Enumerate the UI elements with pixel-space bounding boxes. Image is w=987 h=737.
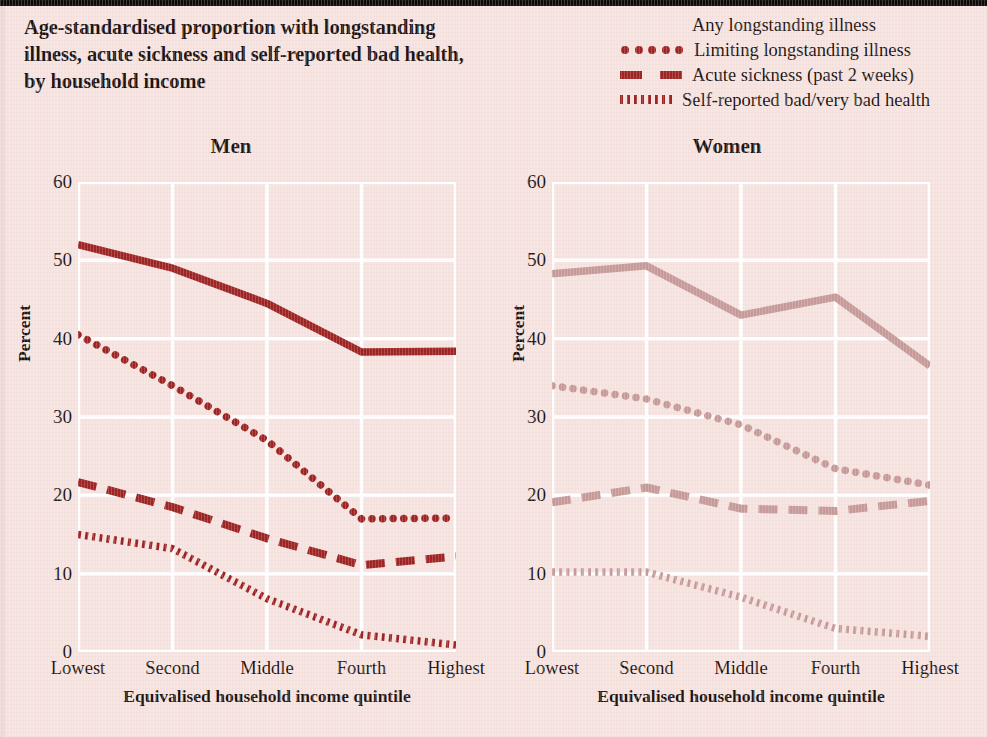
x-tick-label: Highest [901, 658, 959, 679]
y-tick-label: 60 [510, 171, 546, 193]
plot-area-men: 0102030405060 LowestSecondMiddleFourthHi… [78, 182, 456, 652]
y-axis-ticks-women: 0102030405060 [506, 182, 546, 652]
dashed-line-key-icon [620, 69, 682, 81]
y-tick-label: 30 [510, 406, 546, 428]
chart-svg-women [552, 182, 930, 652]
x-axis-ticks-women: LowestSecondMiddleFourthHighest [552, 652, 930, 686]
chart-panel-women: Women Percent 0102030405060 LowestSecond… [500, 130, 970, 730]
y-axis-ticks-men: 0102030405060 [32, 182, 72, 652]
figure-title-line-2: illness, acute sickness and self-reporte… [24, 41, 584, 68]
legend: Any longstanding illness Limiting longst… [620, 12, 980, 112]
legend-label: Any longstanding illness [692, 15, 876, 35]
plot-area-women: 0102030405060 LowestSecondMiddleFourthHi… [552, 182, 930, 652]
x-tick-label: Fourth [811, 658, 860, 679]
y-tick-label: 20 [510, 484, 546, 506]
x-tick-label: Middle [714, 658, 767, 679]
legend-label: Self-reported bad/very bad health [682, 90, 930, 110]
x-axis-label-women: Equivalised household income quintile [552, 686, 930, 707]
x-tick-label: Highest [427, 658, 485, 679]
chart-svg-men [78, 182, 456, 652]
x-tick-label: Middle [240, 658, 293, 679]
panel-title-women: Women [492, 134, 962, 159]
legend-item-any-longstanding-illness: Any longstanding illness [620, 12, 980, 37]
panel-title-men: Men [0, 134, 466, 159]
legend-item-acute-sickness: Acute sickness (past 2 weeks) [620, 62, 980, 87]
legend-item-limiting-longstanding-illness: Limiting longstanding illness [620, 37, 980, 62]
x-tick-label: Lowest [525, 658, 579, 679]
left-page-edge [0, 6, 5, 737]
y-tick-label: 30 [36, 406, 72, 428]
x-axis-ticks-men: LowestSecondMiddleFourthHighest [78, 652, 456, 686]
y-tick-label: 50 [36, 249, 72, 271]
figure-title-line-3: by household income [24, 68, 584, 95]
y-tick-label: 20 [36, 484, 72, 506]
solid-line-key-icon [620, 19, 682, 31]
y-tick-label: 10 [36, 563, 72, 585]
legend-item-self-reported-bad-health: Self-reported bad/very bad health [620, 87, 980, 112]
y-tick-label: 40 [510, 328, 546, 350]
dotted-line-key-icon [620, 44, 684, 56]
legend-label: Limiting longstanding illness [694, 40, 911, 60]
top-black-bar [0, 0, 987, 6]
x-tick-label: Second [145, 658, 199, 679]
chart-panel-men: Men Percent 0102030405060 LowestSecondMi… [8, 130, 478, 730]
y-tick-label: 50 [510, 249, 546, 271]
x-tick-label: Lowest [51, 658, 105, 679]
y-tick-label: 40 [36, 328, 72, 350]
y-tick-label: 10 [510, 563, 546, 585]
x-tick-label: Fourth [337, 658, 386, 679]
x-axis-label-men: Equivalised household income quintile [78, 686, 456, 707]
legend-label: Acute sickness (past 2 weeks) [692, 65, 914, 85]
y-tick-label: 60 [36, 171, 72, 193]
fine-dotted-line-key-icon [620, 94, 672, 106]
figure-title-line-1: Age-standardised proportion with longsta… [24, 14, 584, 41]
figure-title: Age-standardised proportion with longsta… [24, 14, 584, 95]
x-tick-label: Second [619, 658, 673, 679]
